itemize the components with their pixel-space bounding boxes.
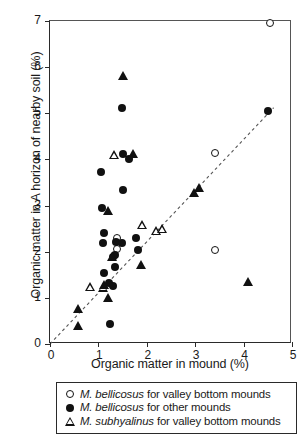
y-axis-tick: 2: [45, 252, 50, 253]
legend-item: M. subhyalinus for valley bottom mounds: [62, 414, 291, 428]
y-axis-tick-label: 2: [34, 245, 41, 257]
data-point: [189, 188, 199, 197]
x-axis-tick: 0: [50, 342, 51, 347]
data-point: [211, 149, 219, 157]
y-axis-tick: 3: [45, 206, 50, 207]
data-point: [106, 320, 114, 328]
x-axis-title: Organic matter in mound (%): [49, 357, 291, 371]
y-axis-tick-label: 1: [34, 291, 41, 303]
data-point: [211, 246, 219, 254]
legend-marker-filled-circle-icon: [62, 401, 78, 414]
y-axis-tick: 1: [45, 298, 50, 299]
data-point: [119, 186, 127, 194]
legend-item-label: M. bellicosus for other mounds: [78, 401, 231, 413]
data-point: [107, 252, 117, 261]
legend-marker-open-circle-icon: [62, 387, 78, 400]
legend-item-label: M. bellicosus for valley bottom mounds: [78, 388, 271, 400]
data-point: [118, 71, 128, 80]
legend-item: M. bellicosus for other mounds: [62, 401, 291, 415]
y-axis-tick-label: 6: [34, 60, 41, 72]
x-axis-tick: 5: [292, 342, 293, 347]
data-point: [109, 150, 119, 159]
y-axis-tick: 6: [45, 67, 50, 68]
x-axis-tick: 2: [147, 342, 148, 347]
y-axis-tick: 5: [45, 113, 50, 114]
data-point: [132, 234, 140, 242]
y-axis-tick: 7: [45, 21, 50, 22]
data-point: [103, 293, 113, 302]
legend-marker-open-triangle-icon: [62, 414, 78, 427]
data-point: [73, 304, 83, 313]
x-axis-tick: 3: [195, 342, 196, 347]
data-point: [136, 260, 146, 269]
legend-item-label: M. subhyalinus for valley bottom mounds: [78, 415, 281, 427]
x-axis-tick: 1: [98, 342, 99, 347]
data-point: [118, 104, 126, 112]
plot-area: 01234567012345: [49, 20, 291, 343]
y-axis-tick-label: 5: [34, 106, 41, 118]
data-point: [109, 282, 117, 290]
x-axis-tick: 4: [244, 342, 245, 347]
data-point: [134, 246, 142, 254]
data-point: [128, 149, 138, 158]
legend-item: M. bellicosus for valley bottom mounds: [62, 387, 291, 401]
y-axis-tick-label: 4: [34, 152, 41, 164]
y-axis-tick-label: 7: [34, 14, 41, 26]
y-axis-tick-label: 3: [34, 199, 41, 211]
data-point: [99, 280, 109, 289]
data-point: [157, 224, 167, 233]
plot-inner: 01234567012345: [50, 21, 290, 342]
data-point: [100, 229, 108, 237]
y-axis-tick-label: 0: [34, 337, 41, 349]
data-point: [137, 220, 147, 229]
data-point: [85, 282, 95, 291]
data-point: [264, 107, 272, 115]
y-axis-tick: 4: [45, 159, 50, 160]
data-point: [73, 321, 83, 330]
legend: M. bellicosus for valley bottom moundsM.…: [56, 382, 297, 434]
data-point: [103, 206, 113, 215]
data-point: [243, 277, 253, 286]
reference-line: [50, 21, 292, 344]
